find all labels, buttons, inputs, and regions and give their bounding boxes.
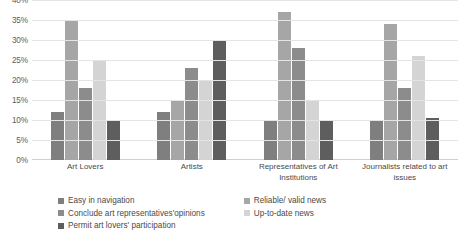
- y-axis: 0%5%10%15%20%25%30%35%40%: [0, 0, 30, 160]
- legend-swatch-icon: [244, 198, 250, 204]
- grouped-bar-chart: 0%5%10%15%20%25%30%35%40% Art LoversArti…: [0, 0, 462, 248]
- category-label-line: Representatives of Art: [246, 162, 350, 173]
- gridline: [32, 140, 458, 141]
- legend-item[interactable]: Conclude art representatives'opinions: [58, 209, 205, 218]
- y-axis-tick-label: 30%: [12, 36, 28, 45]
- bar: [306, 100, 319, 160]
- legend-column-right: Reliable/ valid newsUp-to-date news: [244, 196, 326, 248]
- chart-legend: Easy in navigationConclude art represent…: [0, 196, 462, 248]
- legend-swatch-icon: [58, 223, 64, 229]
- legend-label: Permit art lovers' participation: [68, 221, 176, 230]
- bar: [412, 56, 425, 160]
- category-label-line: Institutions: [246, 173, 350, 184]
- bar: [185, 68, 198, 160]
- legend-swatch-icon: [244, 210, 250, 216]
- bar: [79, 88, 92, 160]
- y-axis-tick-label: 20%: [12, 76, 28, 85]
- legend-item[interactable]: Up-to-date news: [244, 209, 326, 218]
- y-axis-tick-label: 10%: [12, 116, 28, 125]
- category-label-line: Art Lovers: [33, 162, 137, 173]
- legend-item[interactable]: Reliable/ valid news: [244, 196, 326, 205]
- y-axis-tick-label: 0%: [16, 156, 28, 165]
- y-axis-tick-label: 40%: [12, 0, 28, 5]
- legend-label: Up-to-date news: [254, 209, 314, 218]
- gridline: [32, 80, 458, 81]
- category-label-line: issues: [353, 173, 457, 184]
- gridline: [32, 60, 458, 61]
- category-label: Representatives of ArtInstitutions: [246, 162, 350, 196]
- bar: [65, 20, 78, 160]
- category-label-line: Artists: [140, 162, 244, 173]
- bar: [171, 100, 184, 160]
- legend-column-left: Easy in navigationConclude art represent…: [58, 196, 205, 248]
- gridline: [32, 40, 458, 41]
- legend-label: Reliable/ valid news: [254, 196, 326, 205]
- legend-label: Easy in navigation: [68, 196, 134, 205]
- legend-swatch-icon: [58, 198, 64, 204]
- category-label: Artists: [140, 162, 244, 196]
- gridline: [32, 100, 458, 101]
- bar: [398, 88, 411, 160]
- legend-swatch-icon: [58, 210, 64, 216]
- y-axis-tick-label: 15%: [12, 96, 28, 105]
- legend-item[interactable]: Permit art lovers' participation: [58, 221, 205, 230]
- gridline: [32, 20, 458, 21]
- plot-area: 0%5%10%15%20%25%30%35%40%: [0, 0, 462, 160]
- gridline: [32, 0, 458, 1]
- bar: [292, 48, 305, 160]
- legend-label: Conclude art representatives'opinions: [68, 209, 205, 218]
- bar: [93, 60, 106, 160]
- gridline: [32, 120, 458, 121]
- plot-canvas: [32, 0, 458, 160]
- y-axis-tick-label: 35%: [12, 16, 28, 25]
- bar: [426, 118, 439, 160]
- category-label-line: Journalists related to art: [353, 162, 457, 173]
- y-axis-tick-label: 5%: [16, 136, 28, 145]
- category-label: Journalists related to artissues: [353, 162, 457, 196]
- category-label: Art Lovers: [33, 162, 137, 196]
- legend-item[interactable]: Easy in navigation: [58, 196, 205, 205]
- y-axis-tick-label: 25%: [12, 56, 28, 65]
- category-labels: Art LoversArtistsRepresentatives of ArtI…: [32, 162, 458, 196]
- bar: [278, 12, 291, 160]
